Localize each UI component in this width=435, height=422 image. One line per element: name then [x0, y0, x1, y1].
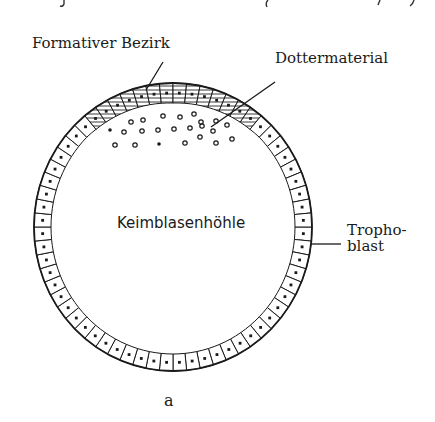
label-yolk-material: Dottermaterial: [275, 51, 388, 66]
yolk-granule-solid: [108, 128, 112, 132]
cell-nucleus: [227, 104, 230, 107]
yolk-granule: [141, 118, 145, 122]
yolk-granule: [192, 112, 196, 116]
yolk-granule-solid: [157, 142, 161, 146]
yolk-granule: [183, 141, 187, 145]
panel-label: a: [164, 393, 174, 409]
yolk-granule: [214, 141, 218, 145]
yolk-granule: [172, 127, 176, 131]
yolk-granule: [133, 143, 137, 147]
cell-nucleus: [60, 295, 63, 298]
cell-nucleus: [178, 361, 181, 364]
yolk-granule: [188, 126, 192, 130]
cell-nucleus: [75, 317, 78, 320]
yolk-granule: [113, 143, 117, 147]
cell-nucleus: [249, 334, 252, 337]
cell-nucleus: [301, 245, 304, 248]
cell-nucleus: [276, 306, 279, 309]
cell-nucleus: [298, 259, 301, 262]
cell-nucleus: [49, 271, 52, 274]
cell-nucleus: [294, 271, 297, 274]
yolk-granule: [230, 137, 234, 141]
cell-nucleus: [259, 125, 262, 128]
yolk-granule: [211, 129, 215, 133]
cell-nucleus: [284, 156, 287, 159]
cell-nucleus: [45, 193, 48, 196]
cell-nucleus: [67, 145, 70, 148]
yolk-granule: [178, 115, 182, 119]
cell-nucleus: [191, 93, 194, 96]
cell-nucleus: [227, 348, 230, 351]
yolk-granule: [225, 123, 229, 127]
cell-nucleus: [203, 95, 206, 98]
cell-nucleus: [165, 92, 168, 95]
cell-nucleus: [43, 206, 46, 209]
cell-nucleus: [153, 93, 156, 96]
cell-nucleus: [215, 99, 218, 102]
cell-nucleus: [140, 95, 143, 98]
cell-nucleus: [259, 326, 262, 329]
cell-nucleus: [75, 135, 78, 138]
cell-nucleus: [165, 361, 168, 364]
cell-nucleus: [94, 117, 97, 120]
yolk-granule: [198, 135, 202, 139]
yolk-granule: [129, 120, 133, 124]
cell-nucleus: [54, 284, 57, 287]
cell-nucleus: [203, 357, 206, 360]
cell-nucleus: [67, 306, 70, 309]
cell-nucleus: [60, 156, 63, 159]
cell-nucleus: [49, 180, 52, 183]
cell-nucleus: [276, 145, 279, 148]
yolk-granule: [161, 114, 165, 118]
cell-nucleus: [116, 348, 119, 351]
cell-nucleus: [294, 180, 297, 183]
cell-nucleus: [152, 360, 155, 363]
cell-nucleus: [128, 353, 131, 356]
cell-nucleus: [140, 357, 143, 360]
label-formative-region: Formativer Bezirk: [32, 36, 170, 51]
cell-nucleus: [178, 92, 181, 95]
cell-nucleus: [301, 206, 304, 209]
cell-nucleus: [302, 232, 305, 235]
yolk-granule: [156, 128, 160, 132]
cell-nucleus: [239, 342, 242, 345]
cell-nucleus: [290, 284, 293, 287]
yolk-granule: [140, 129, 144, 133]
cell-nucleus: [54, 168, 57, 171]
blastocyst-diagram: Formativer Bezirk Dottermaterial Keimbla…: [0, 0, 435, 422]
cell-nucleus: [216, 353, 219, 356]
cell-nucleus: [41, 232, 44, 235]
cell-nucleus: [268, 317, 271, 320]
label-trophoblast-line1: Tropho-: [347, 223, 407, 238]
cell-nucleus: [268, 135, 271, 138]
cell-nucleus: [94, 334, 97, 337]
cell-nucleus: [41, 219, 44, 222]
cell-nucleus: [290, 168, 293, 171]
cell-nucleus: [84, 326, 87, 329]
cell-nucleus: [249, 117, 252, 120]
cell-nucleus: [191, 360, 194, 363]
cell-nucleus: [45, 259, 48, 262]
cell-nucleus: [284, 295, 287, 298]
cell-nucleus: [116, 104, 119, 107]
cell-nucleus: [238, 110, 241, 113]
cropped-text-fragments: [60, 0, 414, 7]
label-trophoblast-line2: blast: [347, 239, 384, 254]
yolk-granule: [122, 130, 126, 134]
cell-nucleus: [298, 193, 301, 196]
label-blastocoel: Keimblasenhöhle: [117, 216, 245, 231]
yolk-dots: [108, 112, 234, 147]
cell-nucleus: [128, 99, 131, 102]
cell-nucleus: [43, 245, 46, 248]
cell-nucleus: [84, 125, 87, 128]
cell-nucleus: [302, 219, 305, 222]
cell-nucleus: [105, 110, 108, 113]
cell-nucleus: [105, 342, 108, 345]
